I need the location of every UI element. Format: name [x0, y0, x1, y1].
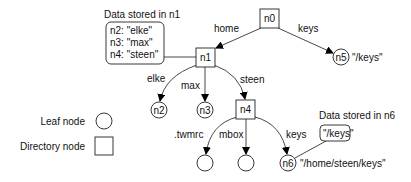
legend-leaf-label: Leaf node	[41, 116, 86, 127]
edge-label-elke: elke	[147, 73, 166, 84]
legend-leaf-icon	[96, 113, 112, 129]
node-n0-label: n0	[264, 13, 276, 24]
node-n3-label: n3	[199, 105, 211, 116]
node-twmrc	[197, 155, 213, 171]
edge-label-max: max	[181, 80, 200, 91]
edge-label-home: home	[214, 23, 239, 34]
naming-graph-diagram: Data stored in n1 n2: "elke" n3: "max" n…	[0, 0, 411, 182]
edge-label-steen: steen	[240, 74, 264, 85]
edge-label-keys-bottom: keys	[286, 129, 307, 140]
data-n6-connector	[295, 141, 326, 158]
node-mbox	[238, 155, 254, 171]
node-n4-label: n4	[240, 104, 252, 115]
data-n1-line-2: n3: "max"	[110, 37, 153, 48]
edge-keys-bottom	[255, 117, 287, 154]
edge-label-twmrc: .twmrc	[174, 129, 203, 140]
data-n6-title: Data stored in n6	[319, 110, 396, 121]
node-n6-label: n6	[282, 158, 294, 169]
edge-label-keys-top: keys	[298, 23, 319, 34]
data-n6-line-1: "/keys"	[323, 128, 354, 139]
data-n1-title: Data stored in n1	[104, 9, 181, 20]
node-n5-label: n5	[335, 52, 347, 63]
data-n1-line-1: n2: "elke"	[110, 25, 153, 36]
node-n1-label: n1	[200, 52, 212, 63]
node-n6-annotation: "/home/steen/keys"	[300, 158, 386, 169]
data-n1-line-3: n4: "steen"	[110, 49, 159, 60]
node-n5-annotation: "/keys"	[352, 52, 383, 63]
legend-directory-icon	[95, 137, 113, 155]
edge-label-mbox: mbox	[219, 129, 243, 140]
legend-directory-label: Directory node	[20, 141, 85, 152]
node-n2-label: n2	[153, 105, 165, 116]
